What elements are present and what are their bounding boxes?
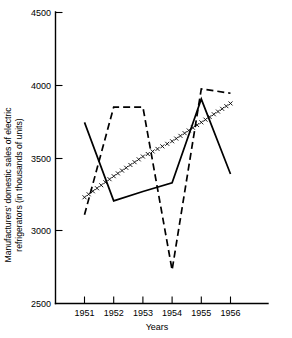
- x-tick-1956: 1956: [220, 297, 240, 319]
- x-marker: [95, 186, 99, 190]
- x-marker: [220, 107, 224, 111]
- y-tick-label: 3500: [31, 154, 51, 164]
- y-tick-label: 3000: [31, 226, 51, 236]
- x-tick-1954: 1954: [162, 297, 182, 319]
- x-tick-1953: 1953: [133, 297, 153, 319]
- x-marker: [170, 139, 174, 143]
- x-marker: [178, 134, 182, 138]
- x-marker: [133, 160, 137, 164]
- y-tick-2500: 2500: [31, 299, 51, 309]
- x-marker: [87, 192, 91, 196]
- x-marker: [224, 104, 228, 108]
- x-marker: [229, 101, 233, 105]
- x-marker: [151, 149, 155, 153]
- y-tick-4500: 4500: [31, 8, 63, 18]
- x-tick-label: 1954: [162, 308, 182, 318]
- x-marker: [99, 183, 103, 187]
- x-tick-1951: 1951: [74, 297, 94, 319]
- x-marker: [174, 137, 178, 141]
- x-marker: [124, 166, 128, 170]
- x-marker: [128, 163, 132, 167]
- y-tick-3500: 3500: [31, 154, 63, 164]
- x-marker: [141, 155, 145, 159]
- y-tick-label: 4500: [31, 8, 51, 18]
- y-tick-label: 2500: [31, 299, 51, 309]
- x-marker: [83, 195, 87, 199]
- x-tick-label: 1956: [220, 308, 240, 318]
- x-marker: [165, 142, 169, 146]
- x-marker: [146, 152, 150, 156]
- x-marker: [203, 118, 207, 122]
- x-marker: [116, 171, 120, 175]
- x-tick-label: 1952: [104, 308, 124, 318]
- x-marker: [120, 169, 124, 173]
- y-tick-3000: 3000: [31, 226, 63, 236]
- x-tick-label: 1953: [133, 308, 153, 318]
- y-tick-4000: 4000: [31, 81, 63, 91]
- x-tick-1952: 1952: [104, 297, 124, 319]
- y-axis-ticks: 4500 4000 3500 3000 2500: [31, 8, 63, 309]
- x-marker: [108, 177, 112, 181]
- x-tick-label: 1955: [191, 308, 211, 318]
- y-axis-title-line1: Manufacturers' domestic sales of electri…: [3, 107, 13, 263]
- x-marker: [137, 157, 141, 161]
- x-tick-label: 1951: [74, 308, 94, 318]
- chart-container: Manufacturers' domestic sales of electri…: [0, 0, 292, 338]
- y-axis-title-line2: refrigerators (in thousands of units): [14, 118, 24, 251]
- line-chart: Manufacturers' domestic sales of electri…: [0, 0, 292, 338]
- y-axis-title: Manufacturers' domestic sales of electri…: [3, 107, 24, 263]
- x-marker: [212, 112, 216, 116]
- x-marker: [216, 110, 220, 114]
- x-marker: [183, 131, 187, 135]
- x-marker: [112, 174, 116, 178]
- x-tick-1955: 1955: [191, 297, 211, 319]
- x-axis-title: Years: [146, 322, 169, 332]
- plot-area: [83, 89, 233, 270]
- x-marker: [199, 120, 203, 124]
- x-axis-ticks: 1951 1952 1953 1954 1955 1956: [74, 297, 240, 319]
- x-marker: [156, 147, 160, 151]
- series-cross-marker-line: [83, 101, 233, 199]
- x-marker: [160, 144, 164, 148]
- y-tick-label: 4000: [31, 81, 51, 91]
